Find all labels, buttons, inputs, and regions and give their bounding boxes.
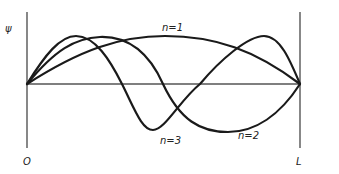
length-label: L [296,157,302,167]
n1-label: n=1 [162,23,183,33]
n2-label: n=2 [238,131,259,141]
origin-label: O [23,157,31,167]
psi-axis-label: ψ [5,24,12,34]
curve-n1 [27,36,300,84]
n3-label: n=3 [160,136,181,146]
